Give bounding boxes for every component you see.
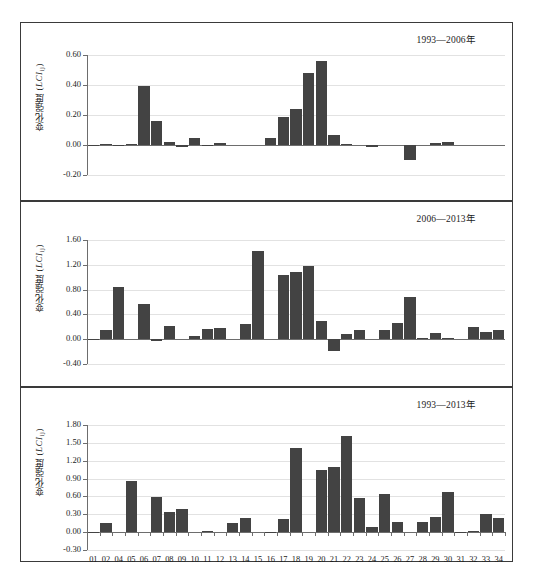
x-axis-tick <box>264 532 265 536</box>
bar <box>341 436 353 532</box>
x-axis-tick <box>150 532 151 536</box>
gridline <box>87 240 505 241</box>
chart-panel-3: 1993—2013年 变化强度 (LCIij) 0102040506070809… <box>20 387 513 562</box>
bar <box>316 321 328 339</box>
gridline <box>87 265 505 266</box>
bar <box>113 287 125 339</box>
panel-1-plot-area <box>87 55 505 175</box>
y-axis-tick-label: 1.80 <box>45 419 81 429</box>
x-axis-tick <box>302 532 303 536</box>
bar <box>202 329 214 339</box>
x-axis-tick <box>505 532 506 536</box>
y-axis-tick-label: 1.20 <box>45 259 81 269</box>
y-axis-tick-label: 0.00 <box>45 333 81 343</box>
y-axis-tick <box>83 175 87 176</box>
ylabel-text: 变化强度 ( <box>34 268 44 312</box>
x-axis-tick <box>277 532 278 536</box>
bar <box>303 73 315 145</box>
y-axis-tick-label: 0.60 <box>45 49 81 59</box>
bar <box>303 266 315 339</box>
y-axis-tick-label: 1.60 <box>45 234 81 244</box>
panel-2-y-axis-label: 变化强度 (LCIij) <box>32 244 46 312</box>
x-axis-tick <box>492 532 493 536</box>
bar <box>354 330 366 339</box>
bar <box>265 532 277 533</box>
bar <box>240 324 252 339</box>
bar <box>442 492 454 532</box>
panel-2-plot-area <box>87 240 505 364</box>
x-axis-tick <box>366 532 367 536</box>
bar <box>493 330 505 339</box>
x-axis-tick <box>201 532 202 536</box>
bar <box>354 498 366 533</box>
x-axis-tick <box>188 532 189 536</box>
x-axis-label: 34 <box>492 555 506 564</box>
bar <box>328 339 340 351</box>
bar <box>430 333 442 340</box>
gridline <box>87 55 505 56</box>
y-axis-tick-label: 0.40 <box>45 79 81 89</box>
bar <box>227 523 239 532</box>
y-axis-tick-label: 0.00 <box>45 139 81 149</box>
bar <box>442 338 454 339</box>
zero-baseline <box>87 339 505 340</box>
bar <box>113 145 125 146</box>
bar <box>417 522 429 532</box>
bar <box>404 297 416 339</box>
y-axis-line <box>87 240 88 364</box>
bar <box>366 145 378 147</box>
ylabel-subscript: ij <box>38 432 46 437</box>
y-axis-tick-label: 0.80 <box>45 284 81 294</box>
bar <box>417 338 429 339</box>
ylabel-paren: ) <box>34 244 44 248</box>
y-axis-tick-label: 0.20 <box>45 109 81 119</box>
bar <box>88 532 100 533</box>
y-axis-line <box>87 55 88 175</box>
y-axis-tick <box>83 550 87 551</box>
gridline <box>87 175 505 176</box>
x-axis-tick <box>214 532 215 536</box>
bar <box>138 304 150 340</box>
bar <box>480 332 492 339</box>
bar <box>88 145 100 146</box>
bar <box>379 494 391 532</box>
x-axis-tick <box>163 532 164 536</box>
bar <box>214 328 226 339</box>
bar <box>493 518 505 532</box>
bar <box>278 275 290 339</box>
y-axis-tick-label: 0.00 <box>45 526 81 536</box>
y-axis-tick-label: 0.30 <box>45 508 81 518</box>
bar <box>278 117 290 145</box>
panel-1-title: 1993—2006年 <box>417 32 477 46</box>
bar <box>265 138 277 146</box>
bar <box>151 121 163 145</box>
bar <box>214 143 226 145</box>
x-axis-tick <box>429 532 430 536</box>
y-axis-tick-label: 0.40 <box>45 308 81 318</box>
bar <box>316 470 328 532</box>
bar <box>316 61 328 145</box>
bar <box>252 251 264 340</box>
bar <box>100 523 112 532</box>
x-axis-tick <box>252 532 253 536</box>
panel-2-title: 2006—2013年 <box>417 211 477 225</box>
y-axis-tick-label: 1.50 <box>45 437 81 447</box>
bar <box>468 531 480 532</box>
x-axis-tick <box>404 532 405 536</box>
bar <box>164 512 176 533</box>
ylabel-text: 变化强度 ( <box>34 452 44 496</box>
bar <box>379 330 391 339</box>
bar <box>455 532 467 533</box>
x-axis-tick <box>328 532 329 536</box>
bar <box>202 145 214 146</box>
bar <box>189 336 201 339</box>
bar <box>176 145 188 147</box>
x-axis-tick <box>87 532 88 536</box>
bar <box>404 145 416 160</box>
panel-3-y-axis-label: 变化强度 (LCIij) <box>32 428 46 496</box>
bar <box>341 334 353 340</box>
bar <box>328 135 340 145</box>
bar <box>126 144 138 145</box>
bar <box>100 144 112 145</box>
y-axis-tick-label: -0.40 <box>45 358 81 368</box>
